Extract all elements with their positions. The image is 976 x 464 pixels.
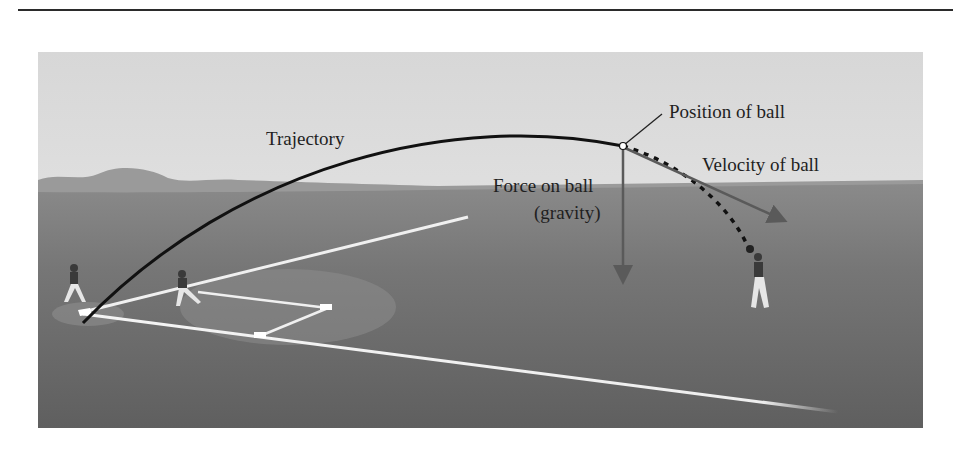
second-base xyxy=(254,332,266,338)
scene-graphics xyxy=(38,52,923,428)
position-label: Position of ball xyxy=(669,101,785,123)
grass-field xyxy=(38,184,923,428)
force-label-line2: (gravity) xyxy=(534,202,600,224)
ball-icon xyxy=(620,143,627,150)
first-base xyxy=(320,304,332,310)
baseball-scene xyxy=(38,52,923,428)
force-label-line1: Force on ball xyxy=(493,175,593,197)
top-rule xyxy=(18,9,953,11)
trajectory-label: Trajectory xyxy=(266,128,344,150)
velocity-label: Velocity of ball xyxy=(702,154,819,176)
